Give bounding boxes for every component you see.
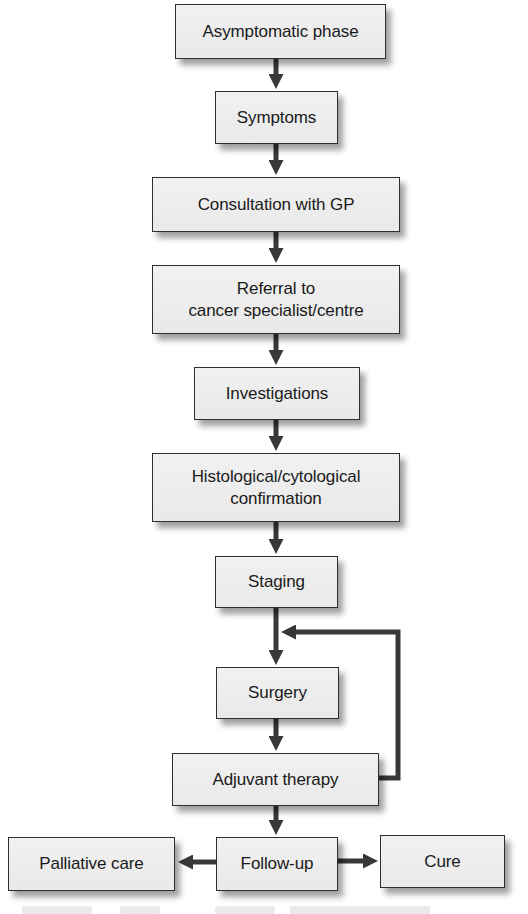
node-label-line-1: Referral to [237, 278, 315, 300]
node-referral: Referral to cancer specialist/centre [152, 265, 400, 334]
node-symptoms: Symptoms [215, 91, 338, 144]
node-consultation-with-gp: Consultation with GP [152, 177, 400, 232]
node-label-line-2: confirmation [230, 488, 321, 510]
node-label: Cure [424, 851, 460, 873]
cut-off-caption-fragment [22, 906, 92, 914]
node-label: Surgery [248, 682, 307, 704]
node-adjuvant-therapy: Adjuvant therapy [172, 753, 379, 806]
node-label-line-1: Histological/cytological [192, 466, 361, 488]
node-histological-confirmation: Histological/cytological confirmation [152, 453, 400, 522]
node-staging: Staging [215, 556, 338, 608]
node-label: Adjuvant therapy [213, 769, 339, 791]
cut-off-caption-fragment [120, 906, 160, 914]
node-label-line-2: cancer specialist/centre [188, 300, 363, 322]
cancer-care-pathway-flowchart: Asymptomatic phase Symptoms Consultation… [0, 0, 528, 914]
node-label: Follow-up [241, 853, 314, 875]
node-label: Investigations [226, 383, 329, 405]
node-investigations: Investigations [194, 367, 360, 420]
cut-off-caption-fragment [215, 906, 275, 914]
node-label: Symptoms [237, 107, 317, 129]
node-surgery: Surgery [216, 667, 339, 719]
node-label: Palliative care [39, 853, 143, 875]
node-label: Consultation with GP [198, 194, 355, 216]
node-palliative-care: Palliative care [8, 837, 175, 891]
node-label: Asymptomatic phase [203, 21, 359, 43]
node-label: Staging [248, 571, 305, 593]
node-asymptomatic-phase: Asymptomatic phase [175, 4, 386, 59]
node-cure: Cure [380, 835, 505, 888]
cut-off-caption-fragment [290, 906, 430, 914]
node-follow-up: Follow-up [216, 837, 338, 891]
